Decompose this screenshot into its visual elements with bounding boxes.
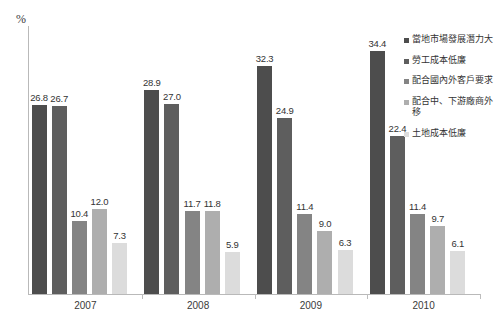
- bar[interactable]: 11.4: [410, 214, 425, 294]
- bar-value-label: 10.4: [70, 208, 88, 219]
- chart-legend: 當地市場發展潛力大勞工成本低廉配合國內外客戶要求配合中、下游廠商外移土地成本低廉: [404, 34, 499, 148]
- legend-item-4[interactable]: 土地成本低廉: [404, 128, 499, 140]
- bar[interactable]: 7.3: [112, 243, 127, 294]
- bar-slot: 28.9: [142, 26, 162, 294]
- bar-value-label: 9.0: [319, 218, 332, 229]
- bar[interactable]: 27.0: [164, 104, 179, 294]
- bar[interactable]: 9.0: [317, 231, 332, 294]
- bar[interactable]: 32.3: [257, 66, 272, 294]
- bar-value-label: 6.3: [339, 237, 352, 248]
- bar[interactable]: 5.9: [225, 252, 240, 294]
- bar-value-label: 9.7: [431, 213, 444, 224]
- bar-value-label: 11.4: [296, 201, 313, 212]
- bar[interactable]: 12.0: [92, 209, 107, 294]
- legend-item-3[interactable]: 配合中、下游廠商外移: [404, 96, 499, 119]
- bar-value-label: 6.1: [452, 238, 465, 249]
- bar-value-label: 11.7: [184, 198, 201, 209]
- bar[interactable]: 26.7: [52, 106, 67, 294]
- bar-slot: 12.0: [89, 26, 109, 294]
- legend-swatch-icon: [404, 59, 409, 64]
- bar[interactable]: 10.4: [72, 221, 87, 294]
- legend-label: 配合中、下游廠商外移: [412, 96, 499, 119]
- bar-slot: 32.3: [255, 26, 275, 294]
- legend-swatch-icon: [404, 132, 409, 137]
- x-axis-label-2009: 2009: [255, 300, 368, 311]
- legend-item-1[interactable]: 勞工成本低廉: [404, 55, 499, 67]
- bar[interactable]: 11.8: [205, 211, 220, 294]
- bar-chart: % 26.826.710.412.07.328.927.011.711.85.9…: [0, 0, 499, 329]
- bar-value-label: 27.0: [163, 91, 181, 102]
- x-axis-labels: 2007200820092010: [29, 300, 480, 311]
- bar[interactable]: 6.3: [338, 250, 353, 294]
- bar[interactable]: 26.8: [32, 105, 47, 294]
- legend-label: 配合國內外客戶要求: [412, 75, 493, 87]
- x-axis-label-2007: 2007: [29, 300, 142, 311]
- bar-group-2007: 26.826.710.412.07.3: [29, 26, 142, 294]
- y-axis-unit-label: %: [16, 12, 26, 27]
- legend-item-0[interactable]: 當地市場發展潛力大: [404, 34, 499, 46]
- bar[interactable]: 9.7: [430, 226, 445, 294]
- legend-label: 勞工成本低廉: [412, 55, 466, 67]
- bar-value-label: 32.3: [256, 53, 274, 64]
- bar-slot: 34.4: [367, 26, 387, 294]
- x-axis-tick: [255, 294, 256, 299]
- bar-group-2009: 32.324.911.49.06.3: [255, 26, 368, 294]
- bar[interactable]: 24.9: [277, 118, 292, 294]
- bar[interactable]: 28.9: [144, 90, 159, 294]
- bar-slot: 11.7: [182, 26, 202, 294]
- bar-slot: 27.0: [162, 26, 182, 294]
- bar-value-label: 7.3: [113, 230, 126, 241]
- legend-item-2[interactable]: 配合國內外客戶要求: [404, 75, 499, 87]
- bar-slot: 26.7: [49, 26, 69, 294]
- bar-value-label: 26.7: [50, 93, 68, 104]
- bar-slot: 24.9: [275, 26, 295, 294]
- bar-value-label: 11.4: [409, 201, 426, 212]
- legend-swatch-icon: [404, 100, 409, 105]
- x-axis-label-2008: 2008: [142, 300, 255, 311]
- x-axis-label-2010: 2010: [367, 300, 480, 311]
- legend-swatch-icon: [404, 38, 409, 43]
- bar[interactable]: 22.4: [390, 136, 405, 294]
- bar-value-label: 26.8: [30, 92, 48, 103]
- bar-slot: 7.3: [110, 26, 130, 294]
- legend-label: 土地成本低廉: [412, 128, 466, 140]
- bar-slot: 9.0: [315, 26, 335, 294]
- bar-value-label: 12.0: [91, 196, 109, 207]
- bar-slot: 11.4: [295, 26, 315, 294]
- legend-swatch-icon: [404, 79, 409, 84]
- x-axis-tick: [142, 294, 143, 299]
- bar-group-2008: 28.927.011.711.85.9: [142, 26, 255, 294]
- bar-slot: 5.9: [222, 26, 242, 294]
- bar-slot: 10.4: [69, 26, 89, 294]
- bar-value-label: 11.8: [204, 198, 221, 209]
- bar-value-label: 24.9: [276, 105, 294, 116]
- bar[interactable]: 11.7: [185, 211, 200, 294]
- x-axis-tick: [367, 294, 368, 299]
- bar[interactable]: 11.4: [297, 214, 312, 294]
- bar[interactable]: 34.4: [370, 51, 385, 294]
- bar-value-label: 34.4: [368, 38, 386, 49]
- legend-label: 當地市場發展潛力大: [412, 34, 493, 46]
- bar[interactable]: 6.1: [450, 251, 465, 294]
- bar-value-label: 28.9: [143, 77, 161, 88]
- x-axis-tick: [480, 294, 481, 299]
- bar-slot: 6.3: [335, 26, 355, 294]
- bar-slot: 26.8: [29, 26, 49, 294]
- bar-value-label: 5.9: [226, 239, 239, 250]
- bar-slot: 11.8: [202, 26, 222, 294]
